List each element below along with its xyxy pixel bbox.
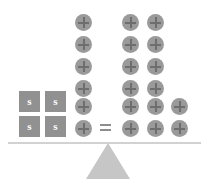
unit-chip <box>75 14 92 31</box>
unit-chip <box>147 58 164 75</box>
unit-chip <box>147 120 164 137</box>
unit-chip <box>122 80 139 97</box>
equals-bar-top <box>100 124 111 126</box>
unit-chip <box>147 80 164 97</box>
variable-tile: s <box>19 91 40 112</box>
unit-chip <box>75 58 92 75</box>
unit-chip <box>147 14 164 31</box>
unit-chip <box>122 36 139 53</box>
unit-chip <box>147 98 164 115</box>
variable-tile: s <box>19 116 40 137</box>
unit-chip <box>171 98 188 115</box>
unit-chip <box>75 120 92 137</box>
variable-tile: s <box>45 91 66 112</box>
unit-chip <box>75 98 92 115</box>
unit-chip <box>122 14 139 31</box>
fulcrum-triangle-icon <box>86 143 130 179</box>
equals-bar-bottom <box>100 129 111 131</box>
unit-chip <box>75 80 92 97</box>
unit-chip <box>75 36 92 53</box>
variable-tile: s <box>45 116 66 137</box>
unit-chip <box>147 36 164 53</box>
unit-chip <box>122 58 139 75</box>
balance-scale-diagram: ssss <box>0 0 209 187</box>
unit-chip <box>122 98 139 115</box>
equals-sign <box>100 124 111 131</box>
unit-chip <box>122 120 139 137</box>
unit-chip <box>171 120 188 137</box>
